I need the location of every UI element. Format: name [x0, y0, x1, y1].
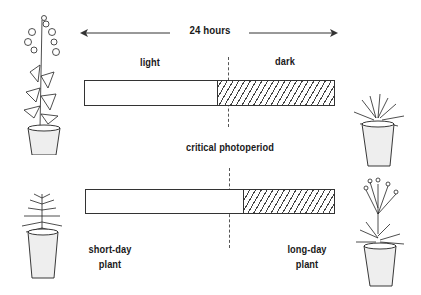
short-day-label-line2: plant [84, 258, 137, 270]
vegetative-rosette-plant-icon [12, 190, 70, 280]
short-day-plant-label: short-day plant [84, 243, 137, 270]
flowering-succulent-plant-icon [348, 174, 410, 289]
long-day-label-line1: long-day [281, 243, 334, 255]
dark-label: dark [263, 55, 307, 67]
short-day-label-line1: short-day [84, 243, 137, 255]
critical-photoperiod-label: critical photoperiod [168, 141, 291, 153]
dark-period-segment [217, 81, 334, 105]
duration-arrow-right [249, 27, 339, 39]
duration-arrow-left [80, 27, 172, 39]
duration-label: 24 hours [175, 24, 245, 36]
long-day-photoperiod-bar [85, 189, 335, 214]
vegetative-succulent-plant-icon [348, 92, 408, 167]
light-label: light [128, 56, 172, 68]
long-day-plant-label: long-day plant [281, 243, 334, 270]
long-day-label-line2: plant [281, 258, 334, 270]
short-day-photoperiod-bar [84, 80, 335, 106]
flowering-tall-plant-icon [10, 10, 70, 155]
dark-period-segment [243, 190, 334, 213]
